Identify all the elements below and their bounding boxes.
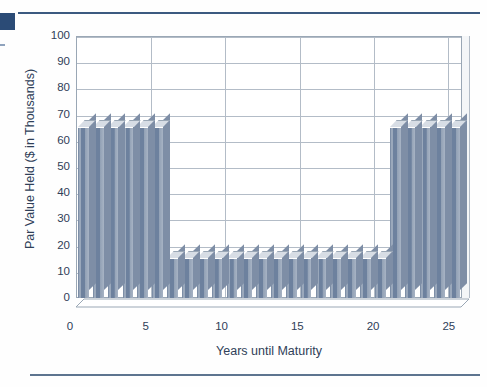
bar-side-face <box>401 113 408 290</box>
bar-side-face <box>430 113 437 290</box>
y-axis-tick-label: 60 <box>36 135 70 146</box>
bar-side-face <box>148 113 155 290</box>
y-axis-tick-label: 40 <box>36 187 70 198</box>
x-axis-tick-label: 10 <box>207 320 237 332</box>
chart-floor-shape <box>76 298 469 308</box>
bar-side-face <box>118 113 125 290</box>
y-axis-tick-label: 0 <box>36 292 70 303</box>
bar-side-face <box>415 113 422 290</box>
bar-side-face <box>89 113 96 290</box>
y-axis-tick-label: 90 <box>36 56 70 67</box>
page-canvas: 0102030405060708090100 Par Value Held ($… <box>0 0 487 387</box>
x-axis-tick-label: 5 <box>131 320 161 332</box>
y-axis-tick-label: 20 <box>36 240 70 251</box>
bar-chart: 0102030405060708090100 Par Value Held ($… <box>0 0 487 387</box>
x-axis-tick-label: 20 <box>358 320 388 332</box>
x-axis-tick-labels: 0510152025 <box>76 320 476 336</box>
bar-side-face <box>445 113 452 290</box>
y-axis-tick-label: 70 <box>36 109 70 120</box>
chart-floor <box>76 298 469 308</box>
y-axis-tick-label: 100 <box>36 30 70 41</box>
bar <box>78 128 89 298</box>
y-axis-tick-label: 10 <box>36 266 70 277</box>
y-axis-tick-label: 50 <box>36 161 70 172</box>
bar-side-face <box>163 113 170 290</box>
bar-front-face <box>78 128 89 298</box>
x-axis-tick-label: 15 <box>282 320 312 332</box>
bar-side-face <box>460 113 467 290</box>
bar-series-group <box>76 36 462 298</box>
y-axis-tick-label: 30 <box>36 213 70 224</box>
x-axis-title: Years until Maturity <box>76 344 462 358</box>
y-axis-tick-label: 80 <box>36 82 70 93</box>
x-axis-tick-label: 0 <box>55 320 85 332</box>
bar-side-face <box>133 113 140 290</box>
x-axis-tick-label: 25 <box>434 320 464 332</box>
bar-side-face <box>104 113 111 290</box>
y-axis-title: Par Value Held ($ in Thousands) <box>23 34 37 284</box>
